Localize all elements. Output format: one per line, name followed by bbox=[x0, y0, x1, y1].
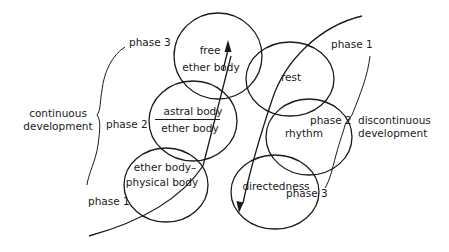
free-ether-body-line2: ether body bbox=[182, 61, 239, 73]
ether-physical-body-line2: physical body bbox=[126, 176, 198, 188]
discontinuous-label-line1: discontinuous bbox=[358, 114, 431, 126]
astral-body-numerator: astral body bbox=[164, 105, 223, 117]
discontinuous-label-line2: development bbox=[358, 127, 427, 139]
right-phase-1-label: phase 1 bbox=[331, 38, 373, 50]
ether-body-denominator: ether body bbox=[161, 122, 218, 134]
ether-physical-body-line1: ether body– bbox=[134, 161, 197, 173]
circle-astral-ether-body bbox=[149, 81, 237, 161]
continuous-curve bbox=[89, 56, 231, 236]
left-phase-3-label: phase 3 bbox=[129, 36, 171, 48]
free-ether-body-line1: free bbox=[200, 44, 221, 56]
circle-free-ether-body bbox=[174, 13, 262, 99]
phase-development-diagram: phase 3 phase 2 phase 1 continuous devel… bbox=[0, 0, 449, 252]
directedness-label: directedness bbox=[242, 180, 309, 192]
rest-label: rest bbox=[281, 71, 301, 83]
left-phase-2-label: phase 2 bbox=[106, 118, 148, 130]
left-brace bbox=[87, 47, 125, 185]
continuous-label-line1: continuous bbox=[29, 107, 87, 119]
rhythm-label: rhythm bbox=[285, 127, 323, 139]
continuous-label-line2: development bbox=[23, 120, 92, 132]
left-phase-1-label: phase 1 bbox=[88, 195, 130, 207]
right-phase-2-label: phase 2 bbox=[310, 114, 352, 126]
